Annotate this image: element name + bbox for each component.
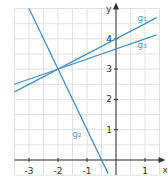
y-tick-label: 1 <box>106 125 112 135</box>
y-tick-label: 2 <box>106 94 112 104</box>
coordinate-plot: xy -3-2-111234 g₁g₃g₂ <box>0 0 167 187</box>
x-tick-label: 1 <box>142 166 148 176</box>
y-axis-label: y <box>106 4 112 14</box>
function-lines <box>15 9 157 174</box>
x-tick-label: -3 <box>25 166 34 176</box>
x-axis-arrow-icon <box>159 157 166 163</box>
line-labels: g₁g₃g₂ <box>72 13 147 140</box>
line-label: g₃ <box>137 40 147 50</box>
line-g3 <box>15 35 157 84</box>
axes: xy <box>15 3 168 176</box>
line-g1 <box>15 18 157 92</box>
y-tick-label: 3 <box>106 64 112 74</box>
y-axis-arrow-icon <box>113 3 119 10</box>
line-label: g₁ <box>137 13 147 23</box>
grid <box>15 9 160 176</box>
x-axis-label: x <box>163 165 168 175</box>
x-tick-label: -2 <box>54 166 63 176</box>
x-tick-label: -1 <box>83 166 92 176</box>
line-g2 <box>29 9 108 174</box>
line-label: g₂ <box>72 129 82 139</box>
